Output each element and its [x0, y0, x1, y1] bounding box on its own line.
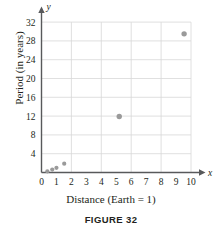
- y-tick-label: 8: [31, 130, 36, 140]
- figure-caption: FIGURE 32: [0, 214, 222, 225]
- y-tick-label: 28: [26, 36, 36, 46]
- y-tick-label: 32: [26, 18, 36, 28]
- x-tick-label: 3: [84, 177, 89, 187]
- y-tick-label: 4: [31, 149, 36, 159]
- x-tick-label: 9: [174, 177, 179, 187]
- x-tick-label: 2: [69, 177, 74, 187]
- y-tick-label: 20: [26, 74, 36, 84]
- y-tick-label: 24: [26, 55, 36, 65]
- x-tick-label: 6: [129, 177, 134, 187]
- x-tick-label: 5: [114, 177, 119, 187]
- data-point: [117, 114, 122, 119]
- x-tick-label: 0: [39, 177, 44, 187]
- data-point: [50, 167, 54, 171]
- x-tick-label: 7: [144, 177, 149, 187]
- data-points: [45, 31, 187, 173]
- y-axis-title: Period (in years): [13, 3, 25, 133]
- y-tick-label: 16: [26, 93, 36, 103]
- y-axis-arrowhead: [38, 7, 44, 14]
- gridlines: [42, 22, 192, 172]
- data-point: [45, 169, 49, 173]
- axis-letters: yx: [46, 2, 214, 178]
- x-axis-letter: x: [207, 168, 213, 178]
- x-tick-label: 4: [99, 177, 104, 187]
- data-point: [181, 31, 186, 36]
- y-axis-letter: y: [46, 2, 52, 12]
- x-axis-title: Distance (Earth = 1): [0, 193, 222, 205]
- data-point: [54, 166, 58, 170]
- x-axis-arrowhead: [199, 169, 206, 175]
- x-tick-label: 8: [159, 177, 164, 187]
- axes: [38, 7, 205, 176]
- y-tick-label: 12: [26, 112, 36, 122]
- tick-labels: 01234567891048121620242832: [26, 18, 196, 187]
- x-tick-label: 10: [186, 177, 196, 187]
- figure-container: 01234567891048121620242832 yx Period (in…: [0, 0, 222, 233]
- x-tick-label: 1: [54, 177, 59, 187]
- data-point: [62, 162, 66, 166]
